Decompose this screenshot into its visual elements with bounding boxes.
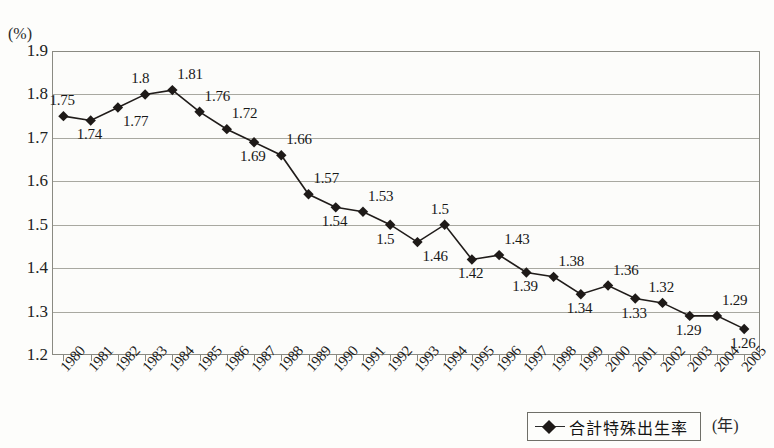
- data-value-label: 1.72: [232, 105, 257, 122]
- data-value-label: 1.69: [240, 148, 265, 165]
- x-tick-mark: [309, 355, 310, 361]
- x-tick-mark: [608, 355, 609, 361]
- y-tick-label: 1.3: [2, 303, 48, 320]
- y-tick-label: 1.8: [2, 85, 48, 102]
- data-value-label: 1.76: [205, 88, 230, 105]
- data-value-label: 1.5: [376, 231, 394, 248]
- x-tick-mark: [417, 355, 418, 361]
- y-tick-label: 1.5: [2, 216, 48, 233]
- x-tick-mark: [227, 355, 228, 361]
- gridline: [53, 268, 759, 269]
- plot-area: [52, 51, 760, 355]
- y-tick-label: 1.6: [2, 172, 48, 189]
- x-tick-mark: [581, 355, 582, 361]
- data-value-label: 1.32: [649, 279, 674, 296]
- x-tick-mark: [472, 355, 473, 361]
- legend-label: 合計特殊出生率: [569, 415, 688, 439]
- data-value-label: 1.75: [49, 92, 74, 109]
- chart-container: (%) (年) 1.91.81.71.61.51.41.31.2 1980198…: [0, 0, 774, 448]
- x-tick-mark: [281, 355, 282, 361]
- gridline: [53, 225, 759, 226]
- x-tick-mark: [254, 355, 255, 361]
- data-value-label: 1.66: [286, 131, 311, 148]
- x-tick-mark: [663, 355, 664, 361]
- x-tick-mark: [554, 355, 555, 361]
- data-value-label: 1.43: [504, 231, 529, 248]
- data-value-label: 1.81: [177, 66, 202, 83]
- x-tick-mark: [390, 355, 391, 361]
- x-tick-mark: [91, 355, 92, 361]
- y-tick-label: 1.9: [2, 42, 48, 59]
- gridline: [53, 181, 759, 182]
- data-value-label: 1.29: [676, 322, 701, 339]
- y-tick-label: 1.2: [2, 346, 48, 363]
- data-value-label: 1.33: [621, 305, 646, 322]
- data-value-label: 1.39: [512, 278, 537, 295]
- legend-line-icon: [535, 426, 565, 427]
- legend-diamond-icon: [542, 420, 556, 434]
- x-tick-mark: [526, 355, 527, 361]
- data-value-label: 1.5: [431, 201, 449, 218]
- data-value-label: 1.53: [368, 188, 393, 205]
- data-value-label: 1.36: [613, 262, 638, 279]
- x-tick-mark: [717, 355, 718, 361]
- x-tick-mark: [690, 355, 691, 361]
- data-value-label: 1.54: [322, 213, 347, 230]
- legend[interactable]: 合計特殊出生率: [527, 412, 701, 441]
- data-value-label: 1.26: [730, 335, 755, 352]
- data-value-label: 1.38: [559, 253, 584, 270]
- data-value-label: 1.34: [567, 300, 592, 317]
- x-tick-mark: [336, 355, 337, 361]
- x-tick-mark: [118, 355, 119, 361]
- data-value-label: 1.74: [77, 126, 102, 143]
- data-value-label: 1.8: [131, 70, 149, 87]
- y-axis-ticks: 1.91.81.71.61.51.41.31.2: [0, 0, 48, 448]
- data-value-label: 1.77: [123, 113, 148, 130]
- x-tick-mark: [499, 355, 500, 361]
- x-tick-mark: [200, 355, 201, 361]
- data-value-label: 1.46: [422, 248, 447, 265]
- data-value-label: 1.57: [314, 170, 339, 187]
- x-tick-mark: [172, 355, 173, 361]
- x-tick-mark: [145, 355, 146, 361]
- gridline: [53, 94, 759, 95]
- x-tick-mark: [363, 355, 364, 361]
- x-tick-mark: [63, 355, 64, 361]
- gridline: [53, 312, 759, 313]
- data-value-label: 1.29: [722, 292, 747, 309]
- y-tick-label: 1.4: [2, 259, 48, 276]
- x-tick-mark: [635, 355, 636, 361]
- x-tick-mark: [744, 355, 745, 361]
- gridline: [53, 138, 759, 139]
- data-value-label: 1.42: [458, 265, 483, 282]
- x-axis-unit-label: (年): [712, 412, 739, 436]
- x-tick-mark: [445, 355, 446, 361]
- y-tick-label: 1.7: [2, 129, 48, 146]
